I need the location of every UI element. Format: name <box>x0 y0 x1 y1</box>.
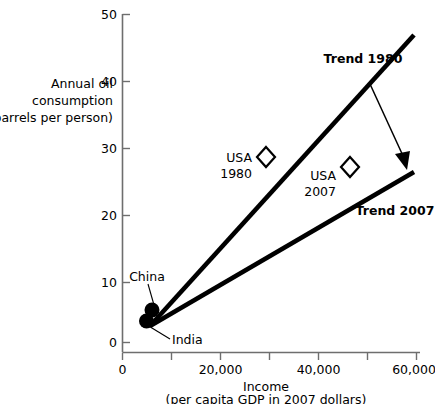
label-trend-2007: Trend 2007 <box>356 203 435 218</box>
y-tick-label-20: 20 <box>101 208 117 223</box>
oil-consumption-chart: 50 40 30 20 10 0 0 20,000 40,000 60,000 … <box>0 0 435 404</box>
label-india: India <box>172 332 203 347</box>
x-axis-ticks <box>123 353 417 361</box>
leader-line-india <box>147 325 170 339</box>
label-usa-1980-year: 1980 <box>220 166 252 181</box>
trend-line-2007 <box>150 172 414 326</box>
y-axis-title-line-2: consumption <box>32 93 113 108</box>
x-axis-title: Income (per capita GDP in 2007 dollars) <box>166 379 367 404</box>
y-axis-title-line-1: Annual oil <box>51 76 113 91</box>
shift-arrow-shaft <box>370 84 404 158</box>
chart-canvas: 50 40 30 20 10 0 0 20,000 40,000 60,000 … <box>0 0 435 404</box>
y-tick-label-50: 50 <box>101 7 117 22</box>
shift-arrow-head <box>395 151 410 170</box>
y-axis-title: Annual oil consumption (barrels per pers… <box>0 76 113 125</box>
x-axis-title-sub: (per capita GDP in 2007 dollars) <box>166 392 367 404</box>
y-tick-label-0: 0 <box>109 335 117 350</box>
y-axis-ticks <box>123 15 131 343</box>
x-axis-tick-labels: 0 20,000 40,000 60,000 <box>119 362 435 377</box>
leader-line-china <box>148 284 154 305</box>
y-tick-label-10: 10 <box>101 275 117 290</box>
x-tick-label-20000: 20,000 <box>199 362 243 377</box>
marker-usa-2007-diamond <box>341 157 359 177</box>
label-usa-1980-name: USA <box>226 150 252 165</box>
label-usa-2007-year: 2007 <box>304 184 336 199</box>
shift-arrow <box>370 84 410 170</box>
trend-lines-group <box>150 35 414 326</box>
label-usa-2007-name: USA <box>310 168 336 183</box>
y-axis-tick-labels: 50 40 30 20 10 0 <box>101 7 117 350</box>
marker-usa-1980-diamond <box>257 147 275 167</box>
x-tick-label-40000: 40,000 <box>297 362 341 377</box>
x-tick-label-0: 0 <box>119 362 127 377</box>
label-trend-1980: Trend 1980 <box>324 51 403 66</box>
label-china: China <box>129 269 165 284</box>
y-tick-label-30: 30 <box>101 141 117 156</box>
marker-india-dot <box>139 314 154 329</box>
y-axis-title-line-3: (barrels per person) <box>0 110 113 125</box>
trend-line-1980 <box>150 35 414 326</box>
x-tick-label-60000: 60,000 <box>392 362 435 377</box>
